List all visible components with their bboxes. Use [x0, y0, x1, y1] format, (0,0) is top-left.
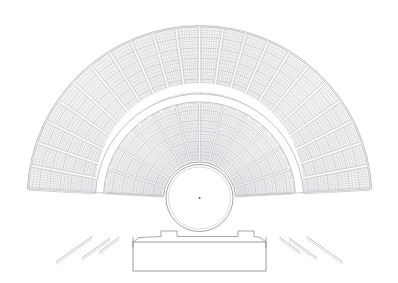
theatre-plan-figure: Plan of an ancient Greek theatre cavea, …	[0, 0, 398, 283]
skene-rectangle	[133, 242, 266, 271]
orchestra-center-mark	[198, 197, 200, 199]
theatre-plan-drawing: Plan of an ancient Greek theatre cavea, …	[0, 0, 398, 283]
orchestra	[166, 165, 233, 232]
